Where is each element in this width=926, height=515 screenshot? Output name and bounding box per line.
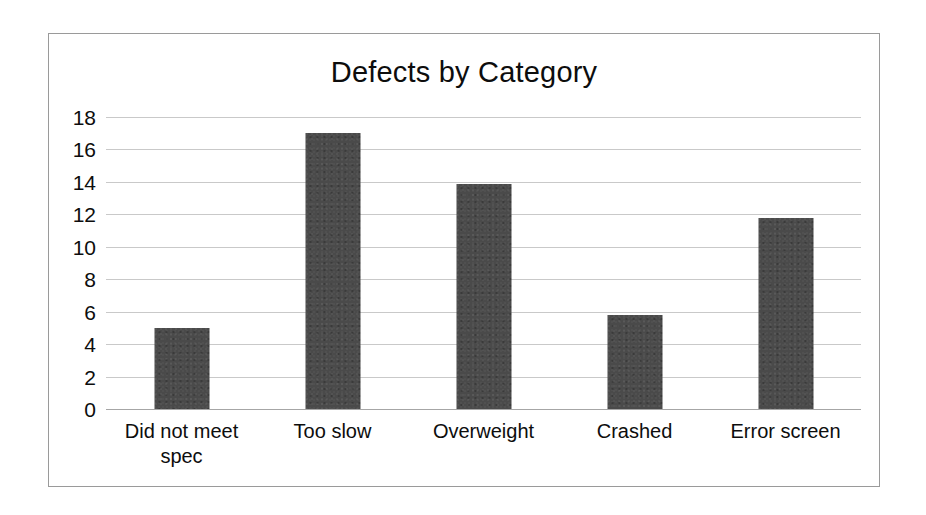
y-tick-label: 10 xyxy=(73,236,96,257)
y-tick-label: 18 xyxy=(73,107,96,128)
y-tick-label: 0 xyxy=(84,399,96,420)
bar-group: Too slow xyxy=(257,117,408,409)
y-tick-label: 2 xyxy=(84,366,96,387)
bar[interactable] xyxy=(758,218,813,409)
y-tick-label: 12 xyxy=(73,204,96,225)
y-tick-label: 4 xyxy=(84,334,96,355)
bar[interactable] xyxy=(456,184,511,409)
bar-group: Crashed xyxy=(559,117,710,409)
gridline xyxy=(106,409,861,410)
bar-series: Did not meet specToo slowOverweightCrash… xyxy=(106,117,861,409)
bar-group: Did not meet spec xyxy=(106,117,257,409)
x-tick-label: Too slow xyxy=(253,419,413,444)
bar[interactable] xyxy=(154,328,209,409)
x-tick-label: Overweight xyxy=(404,419,564,444)
bar-group: Error screen xyxy=(710,117,861,409)
chart-figure: Defects by Category 181614121086420 Did … xyxy=(48,33,880,487)
x-tick-label: Crashed xyxy=(555,419,715,444)
y-tick-label: 16 xyxy=(73,139,96,160)
bar-group: Overweight xyxy=(408,117,559,409)
y-tick-label: 14 xyxy=(73,171,96,192)
y-tick-label: 8 xyxy=(84,269,96,290)
bar[interactable] xyxy=(305,133,360,409)
y-tick-label: 6 xyxy=(84,301,96,322)
plot-area: 181614121086420 Did not meet specToo slo… xyxy=(106,117,861,409)
chart-title: Defects by Category xyxy=(49,56,879,89)
bar[interactable] xyxy=(607,315,662,409)
x-tick-label: Error screen xyxy=(706,419,866,444)
x-tick-label: Did not meet spec xyxy=(102,419,262,469)
